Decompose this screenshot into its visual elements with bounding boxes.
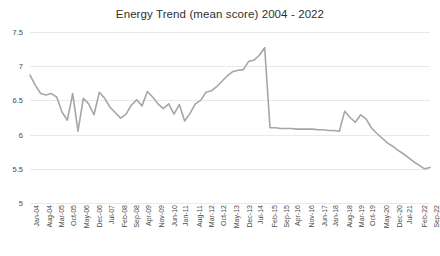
y-tick-label: 7 [19,62,23,71]
y-tick-label: 5 [19,199,23,208]
x-tick-label: Mar-19 [358,205,365,227]
x-tick-label: Sep-08 [133,205,140,228]
x-tick-label: Feb-22 [421,205,428,227]
x-tick-label: Jan-04 [33,205,40,226]
x-tick-label: Dec-20 [396,205,403,228]
x-tick-label: Dec-06 [96,205,103,228]
y-axis: 7.576.565.55 [0,32,26,203]
line-series [30,32,430,203]
x-tick-label: Sep-15 [283,205,290,228]
x-tick-label: Feb-08 [121,205,128,227]
x-tick-label: Feb-15 [271,205,278,227]
x-tick-label: Mar-12 [208,205,215,227]
x-tick-label: Nov-16 [308,205,315,228]
x-tick-label: May-06 [83,205,90,228]
y-tick-label: 6.5 [13,96,23,105]
x-tick-label: Aug-18 [346,205,353,228]
y-tick-label: 7.5 [13,28,23,37]
x-tick-label: Aug-04 [46,205,53,228]
x-tick-label: Jul-21 [406,205,413,224]
x-tick-label: Mar-05 [58,205,65,227]
x-tick-label: May-13 [233,205,240,228]
plot-area [30,32,430,203]
x-tick-label: Jun-17 [321,205,328,226]
x-tick-label: Jul-07 [108,205,115,224]
x-tick-label: Apr-09 [145,205,152,226]
x-tick-label: Oct-05 [70,205,77,226]
x-tick-label: Nov-09 [158,205,165,228]
series-polyline [30,48,430,169]
x-tick-label: Jan-11 [182,205,189,226]
x-axis: Jan-04Aug-04Mar-05Oct-05May-06Dec-06Jul-… [30,205,430,255]
x-tick-label: Jun-10 [171,205,178,226]
x-tick-label: May-20 [383,205,390,228]
x-tick-label: Aug-11 [196,205,203,227]
x-tick-label: Dec-13 [246,205,253,228]
x-tick-label: Oct-12 [220,205,227,226]
y-tick-label: 5.5 [13,164,23,173]
x-tick-label: Jan-18 [332,205,339,226]
x-tick-label: Oct-19 [369,205,376,226]
y-tick-label: 6 [19,130,23,139]
x-tick-label: Sep-22 [433,205,440,228]
x-tick-label: Apr-16 [294,205,301,226]
energy-trend-chart: Energy Trend (mean score) 2004 - 2022 7.… [0,0,440,256]
gridline [30,203,430,204]
chart-title: Energy Trend (mean score) 2004 - 2022 [0,8,440,20]
x-tick-label: Jul-14 [257,205,264,224]
